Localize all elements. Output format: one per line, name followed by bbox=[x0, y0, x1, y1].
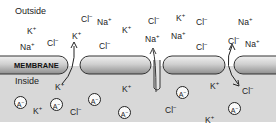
ion-label: K+ bbox=[205, 114, 214, 124]
ion-label: Na+ bbox=[171, 30, 185, 40]
anion-circle: A− bbox=[88, 93, 101, 106]
ion-label: K+ bbox=[55, 81, 64, 91]
ion-label: Cl− bbox=[196, 41, 208, 51]
outside-label: Outside bbox=[15, 7, 46, 16]
inside-label: Inside bbox=[15, 77, 39, 86]
ion-label: K+ bbox=[122, 83, 131, 93]
anion-circle: A− bbox=[118, 106, 131, 119]
ion-label: Cl− bbox=[81, 13, 93, 23]
membrane-diagram: Outside Inside MEMBRANE K+Na+Cl−Cl−Na+K+… bbox=[0, 0, 276, 128]
ion-label: K+ bbox=[176, 12, 185, 22]
ion-label: Cl− bbox=[196, 16, 208, 26]
ion-label: K+ bbox=[72, 30, 81, 40]
ion-label: Na+ bbox=[20, 41, 34, 51]
ion-label: Cl− bbox=[242, 85, 254, 95]
ion-label: Na+ bbox=[245, 38, 259, 48]
ion-label: K+ bbox=[210, 80, 219, 90]
membrane-segment-4 bbox=[234, 56, 276, 74]
ion-label: Cl− bbox=[165, 104, 177, 114]
ion-label: Cl− bbox=[47, 37, 59, 47]
membrane-label: MEMBRANE bbox=[14, 61, 59, 70]
anion-circle: A− bbox=[14, 96, 27, 109]
ion-label: Na+ bbox=[238, 16, 252, 26]
membrane-segment-2 bbox=[80, 56, 151, 74]
ion-label: Cl− bbox=[70, 106, 82, 116]
membrane-segment-3 bbox=[163, 56, 225, 74]
ion-label: Cl− bbox=[228, 35, 240, 45]
ion-label: Na+ bbox=[145, 33, 159, 43]
anion-circle: A− bbox=[228, 102, 241, 115]
ion-label: Na+ bbox=[97, 16, 111, 26]
ion-label: K+ bbox=[27, 25, 36, 35]
ion-label: Cl− bbox=[148, 15, 160, 25]
anion-circle: A− bbox=[176, 86, 189, 99]
ion-label: Cl− bbox=[99, 40, 111, 50]
anion-circle: A− bbox=[50, 98, 63, 111]
ion-label: K+ bbox=[33, 105, 42, 115]
ion-label: K+ bbox=[122, 24, 131, 34]
